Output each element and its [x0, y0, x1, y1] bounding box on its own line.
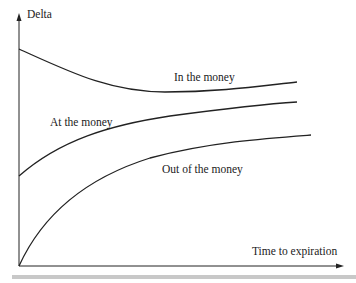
y-axis-arrow-icon — [17, 13, 22, 21]
delta-chart: Delta Time to expiration In the money At… — [0, 0, 356, 283]
x-axis-arrow-icon — [336, 264, 344, 269]
label-in-the-money: In the money — [174, 71, 235, 83]
chart-plot — [0, 0, 356, 283]
label-at-the-money: At the money — [50, 116, 113, 128]
label-out-of-the-money: Out of the money — [162, 163, 243, 175]
curve-at-the-money — [19, 102, 297, 176]
x-axis-label: Time to expiration — [252, 245, 337, 257]
curve-in-the-money — [19, 49, 297, 92]
bottom-divider — [12, 275, 356, 279]
y-axis-label: Delta — [27, 8, 52, 20]
